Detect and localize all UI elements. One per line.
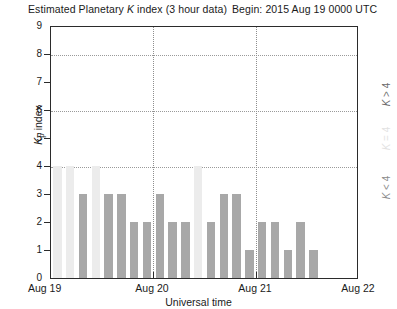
bar-aug19-21 [143,222,152,278]
x-tick-label-aug21: Aug 21 [238,282,271,294]
bar-aug21-09 [296,222,305,278]
bar-aug21-03 [271,222,280,278]
kp-index-chart: Estimated Planetary K index (3 hour data… [0,0,397,309]
bar-aug20-09 [194,166,203,278]
bar-aug19-18 [130,222,139,278]
bar-aug20-12 [207,222,216,278]
bar-aug19-09 [92,166,101,278]
bar-aug19-12 [104,194,113,278]
x-tick-label-aug19: Aug 19 [28,282,61,294]
day-separator-aug21 [256,27,257,278]
legend-k-symbol-mid: K [381,144,392,151]
y-tick-label-3: 3 [18,189,42,199]
chart-title-k-symbol: K [127,3,134,15]
y-tick-label-5: 5 [18,133,42,143]
y-tick-label-7: 7 [18,77,42,87]
bar-aug20-15 [220,194,229,278]
legend-label-k-less-4: K < 4 [381,158,392,218]
y-tick-label-2: 2 [18,217,42,227]
bar-aug20-00 [156,194,165,278]
x-tick-mark-aug20 [153,272,154,278]
bar-aug19-00 [53,166,62,278]
chart-title-post: index (3 hour data) [134,3,227,15]
bar-aug19-06 [79,194,88,278]
gridline-y6 [51,111,357,112]
y-tick-label-1: 1 [18,245,42,255]
bar-aug21-12 [309,250,318,278]
bar-aug20-21 [245,250,254,278]
y-axis-label: Kp index [32,80,46,170]
legend-op-mid: = 4 [381,127,392,144]
day-separator-aug20 [153,27,154,278]
y-tick-label-8: 8 [18,49,42,59]
x-tick-mark-aug21 [256,272,257,278]
plot-area [50,26,358,279]
plot-inner [51,27,357,278]
x-axis-label: Universal time [0,296,397,308]
bar-aug20-18 [232,194,241,278]
legend-op-high: > 4 [381,83,392,100]
bar-aug21-06 [284,250,293,278]
legend-k-symbol-low: K [381,193,392,200]
bar-aug20-03 [168,222,177,278]
bar-aug19-03 [66,166,75,278]
x-tick-label-aug20: Aug 20 [135,282,168,294]
chart-title-pre: Estimated Planetary [28,3,127,15]
y-tick-label-9: 9 [18,21,42,31]
y-tick-label-6: 6 [18,105,42,115]
gridline-y8 [51,55,357,56]
bar-aug19-15 [117,194,126,278]
bar-aug20-06 [181,222,190,278]
x-tick-label-aug22: Aug 22 [341,282,374,294]
y-tick-label-4: 4 [18,161,42,171]
legend-op-low: < 4 [381,176,392,193]
bar-aug21-00 [258,222,267,278]
legend-k-symbol-high: K [381,100,392,107]
begin-timestamp: Begin: 2015 Aug 19 0000 UTC [232,3,377,15]
chart-title: Estimated Planetary K index (3 hour data… [28,3,227,15]
